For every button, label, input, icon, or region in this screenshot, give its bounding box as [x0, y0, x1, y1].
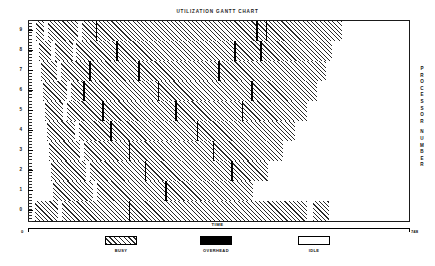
- legend-item-idle[interactable]: IDLE: [297, 236, 331, 253]
- gantt-segment-idle: [29, 81, 43, 101]
- gantt-segment-busy: [97, 181, 165, 201]
- y-axis-major-tick: [28, 110, 33, 111]
- y-axis-label: 0: [8, 208, 22, 213]
- y-axis-major-tick: [28, 210, 33, 211]
- gantt-segment-busy: [236, 41, 260, 61]
- gantt-segment-idle: [283, 141, 409, 161]
- y-axis-major-tick: [28, 130, 33, 131]
- gantt-row: [29, 21, 409, 41]
- plot-frame: [28, 20, 410, 222]
- legend-item-overhead[interactable]: OVERHEAD: [199, 236, 233, 253]
- utilization-gantt-chart: UTILIZATION GANTT CHART 9876543210 0 748…: [0, 0, 435, 266]
- y-axis-title-letter: P: [417, 66, 427, 73]
- gantt-segment-busy: [43, 81, 67, 101]
- y-axis-major-tick: [28, 30, 33, 31]
- gantt-row: [29, 121, 409, 141]
- legend-item-busy[interactable]: BUSY: [104, 236, 138, 253]
- y-axis-title-letter: O: [417, 112, 427, 119]
- y-axis-major-tick: [28, 170, 33, 171]
- gantt-segment-idle: [268, 161, 409, 181]
- gantt-segment-busy: [253, 81, 317, 101]
- gantt-row: [29, 201, 409, 221]
- y-axis-major-tick: [28, 190, 33, 191]
- x-axis-start-label: 0: [21, 229, 23, 234]
- gantt-segment-busy: [104, 101, 176, 121]
- x-axis-end-cap: [409, 228, 410, 232]
- y-axis-label: 4: [8, 128, 22, 133]
- gantt-segment-busy: [159, 81, 251, 101]
- y-axis-major-tick: [28, 90, 33, 91]
- gantt-segment-busy: [35, 201, 58, 221]
- y-axis-title-letter: E: [417, 92, 427, 99]
- gantt-segment-busy: [97, 21, 256, 41]
- gantt-segment-busy: [62, 201, 129, 221]
- gantt-row: [29, 181, 409, 201]
- x-axis-line: [28, 228, 410, 229]
- gantt-segment-busy: [82, 21, 96, 41]
- gantt-row: [29, 61, 409, 81]
- y-axis-title-letter: E: [417, 156, 427, 163]
- y-axis-title-processor-number: PROCESSORNUMBER: [417, 66, 427, 169]
- gantt-segment-idle: [29, 161, 51, 181]
- gantt-segment-busy: [267, 21, 342, 41]
- y-axis-label: 3: [8, 148, 22, 153]
- y-axis-title-letter: R: [417, 162, 427, 169]
- y-axis-major-tick: [28, 50, 33, 51]
- gantt-segment-idle: [29, 121, 47, 141]
- gantt-rows-container: [29, 21, 409, 221]
- gantt-segment-busy: [243, 101, 307, 121]
- gantt-segment-idle: [317, 81, 409, 101]
- gantt-segment-busy: [51, 161, 86, 181]
- x-axis-title: TIME: [0, 222, 435, 227]
- y-axis-title-letter: S: [417, 99, 427, 106]
- y-axis-label: 9: [8, 28, 22, 33]
- legend-label: OVERHEAD: [199, 248, 233, 253]
- gantt-segment-idle: [29, 61, 41, 81]
- y-axis-title-letter: O: [417, 79, 427, 86]
- gantt-segment-idle: [29, 141, 49, 161]
- gantt-segment-busy: [167, 181, 253, 201]
- y-axis-title-letter: N: [417, 129, 427, 136]
- y-axis-title-letter: R: [417, 119, 427, 126]
- gantt-segment-busy: [47, 121, 75, 141]
- legend-swatch-overhead: [200, 236, 232, 245]
- gantt-segment-busy: [79, 121, 110, 141]
- gantt-segment-busy: [45, 101, 63, 121]
- gantt-segment-busy: [130, 201, 307, 221]
- gantt-row: [29, 81, 409, 101]
- gantt-row: [29, 101, 409, 121]
- gantt-segment-idle: [342, 21, 409, 41]
- y-axis-title-letter: C: [417, 86, 427, 93]
- gantt-row: [29, 141, 409, 161]
- gantt-row: [29, 41, 409, 61]
- legend-swatch-idle: [298, 236, 330, 245]
- gantt-segment-busy: [84, 141, 129, 161]
- y-axis-title-letter: B: [417, 149, 427, 156]
- gantt-segment-busy: [61, 61, 89, 81]
- gantt-segment-busy: [53, 181, 93, 201]
- legend-label: BUSY: [104, 248, 138, 253]
- gantt-segment-busy: [55, 41, 73, 61]
- gantt-segment-busy: [177, 101, 242, 121]
- gantt-segment-busy: [85, 81, 158, 101]
- gantt-segment-idle: [29, 41, 39, 61]
- y-axis-label: 8: [8, 48, 22, 53]
- y-axis-label: 1: [8, 188, 22, 193]
- gantt-segment-busy: [67, 101, 103, 121]
- gantt-segment-idle: [332, 41, 409, 61]
- gantt-segment-busy: [118, 41, 234, 61]
- y-axis-title-letter: R: [417, 73, 427, 80]
- legend-swatch-busy: [105, 236, 137, 245]
- gantt-segment-busy: [214, 141, 283, 161]
- y-axis-title-letter: S: [417, 106, 427, 113]
- y-axis-major-tick: [28, 70, 33, 71]
- chart-title: UTILIZATION GANTT CHART: [0, 9, 435, 14]
- gantt-segment-busy: [146, 161, 231, 181]
- gantt-segment-idle: [329, 201, 409, 221]
- y-axis-label: 5: [8, 108, 22, 113]
- y-axis-label: 2: [8, 168, 22, 173]
- gantt-segment-idle: [253, 181, 409, 201]
- gantt-segment-busy: [91, 61, 138, 81]
- gantt-segment-busy: [48, 21, 78, 41]
- gantt-segment-idle: [29, 21, 36, 41]
